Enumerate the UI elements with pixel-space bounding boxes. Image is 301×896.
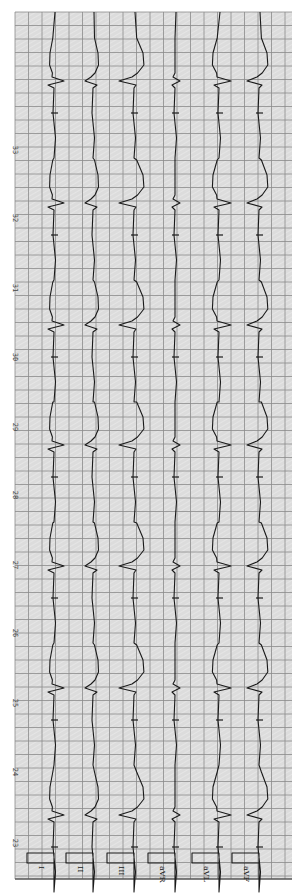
- lead-label: II: [76, 866, 85, 872]
- time-marker-label: 30: [11, 353, 19, 361]
- time-marker-label: 28: [11, 491, 19, 499]
- lead-label: I: [37, 866, 46, 869]
- time-marker-label: 23: [11, 839, 19, 847]
- lead-label: aVF: [242, 866, 251, 883]
- time-marker-label: 25: [11, 699, 19, 707]
- time-marker-label: 29: [11, 423, 19, 431]
- time-marker-label: 33: [11, 146, 19, 154]
- time-marker-label: 31: [11, 284, 19, 292]
- time-marker-label: 26: [11, 629, 19, 637]
- lead-label: aVL: [202, 866, 211, 883]
- time-marker-label: 24: [11, 768, 19, 776]
- time-marker-label: 27: [11, 561, 19, 569]
- lead-label: aVR: [158, 866, 167, 884]
- lead-label: III: [117, 866, 126, 875]
- ecg-strip: 3332313029282726252423 IIIIIIaVRaVLaVF: [0, 0, 301, 896]
- time-marker-label: 32: [11, 214, 19, 222]
